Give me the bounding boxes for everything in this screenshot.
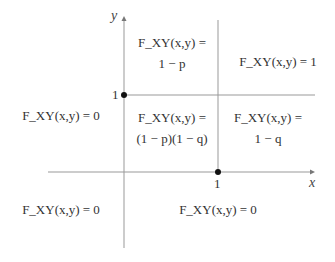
- region-bottom-right: F_XY(x,y) = 0: [160, 201, 276, 218]
- region-center: F_XY(x,y) = (1 − p)(1 − q): [126, 109, 218, 147]
- region-top-middle: F_XY(x,y) = 1 − p: [128, 34, 216, 72]
- region-center-right-line2: 1 − q: [222, 130, 314, 147]
- region-left-middle-line1: F_XY(x,y) = 0: [2, 107, 120, 124]
- region-center-line2: (1 − p)(1 − q): [126, 130, 218, 147]
- region-center-line1: F_XY(x,y) =: [126, 109, 218, 126]
- x-axis-label: x: [309, 175, 315, 191]
- x-tick-1: 1: [214, 176, 221, 192]
- region-top-right-line1: F_XY(x,y) = 1: [222, 53, 334, 70]
- region-top-middle-line2: 1 − p: [128, 55, 216, 72]
- point-0-1: [121, 92, 127, 98]
- region-bottom-left-line1: F_XY(x,y) = 0: [2, 201, 120, 218]
- region-top-right: F_XY(x,y) = 1: [222, 53, 334, 70]
- region-center-right-line1: F_XY(x,y) =: [222, 109, 314, 126]
- region-bottom-right-line1: F_XY(x,y) = 0: [160, 201, 276, 218]
- y-axis-arrow-icon: [122, 16, 127, 21]
- region-top-middle-line1: F_XY(x,y) =: [128, 34, 216, 51]
- region-left-middle: F_XY(x,y) = 0: [2, 107, 120, 124]
- y-axis-label: y: [111, 8, 117, 24]
- region-center-right: F_XY(x,y) = 1 − q: [222, 109, 314, 147]
- point-1-0: [215, 169, 221, 175]
- x-axis-arrow-icon: [310, 170, 315, 175]
- y-tick-1: 1: [112, 87, 119, 103]
- region-bottom-left: F_XY(x,y) = 0: [2, 201, 120, 218]
